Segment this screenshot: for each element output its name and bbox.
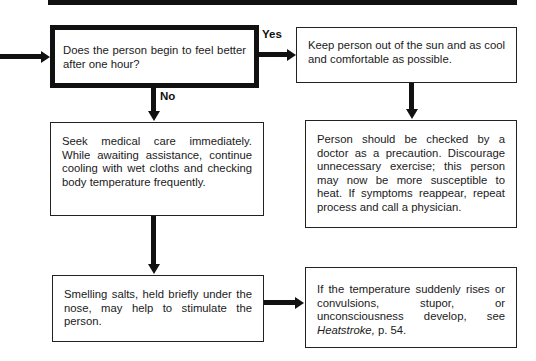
incoming-arrow-line — [0, 54, 42, 59]
no-arrow-head — [148, 111, 160, 121]
no-step1-text: Seek medical care immediately. While awa… — [62, 135, 252, 188]
no-step2-box: Smelling salts, held briefly under the n… — [52, 275, 264, 342]
yes-arrow-head — [287, 49, 296, 61]
yes-down-arrow-line — [409, 83, 414, 110]
no-down-arrow-line — [151, 216, 156, 265]
decision-box: Does the person begin to feel better aft… — [50, 25, 259, 88]
no-step3-suffix: p. 54. — [375, 324, 406, 336]
yes-label: Yes — [262, 28, 282, 40]
no-step1-box: Seek medical care immediately. While awa… — [50, 122, 264, 216]
no-down-arrow-head — [148, 264, 160, 274]
no-step3-prefix: If the temperature suddenly rises or con… — [317, 283, 505, 322]
no-step2-text: Smelling salts, held briefly under the n… — [64, 288, 252, 327]
step3-arrow-line — [264, 300, 296, 305]
no-step3-box: If the temperature suddenly rises or con… — [305, 267, 517, 348]
yes-step2-box: Person should be checked by a doctor as … — [305, 120, 517, 228]
no-label: No — [160, 90, 175, 102]
step3-arrow-head — [295, 297, 304, 309]
no-arrow-line — [151, 88, 156, 112]
yes-step1-box: Keep person out of the sun and as cool a… — [296, 27, 517, 83]
yes-down-arrow-head — [406, 109, 418, 119]
yes-step2-text: Person should be checked by a doctor as … — [317, 133, 505, 213]
yes-arrow-line — [259, 52, 288, 57]
heatstroke-reference: Heatstroke, — [317, 324, 375, 336]
yes-step1-text: Keep person out of the sun and as cool a… — [308, 39, 505, 65]
header-bar — [48, 0, 517, 5]
decision-text: Does the person begin to feel better aft… — [63, 44, 246, 70]
incoming-arrow-head — [41, 51, 50, 63]
